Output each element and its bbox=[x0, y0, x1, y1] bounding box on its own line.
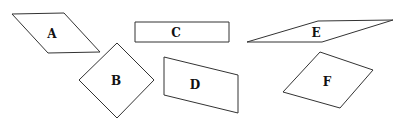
shape-a-label: A bbox=[46, 27, 57, 41]
shape-b: B bbox=[79, 43, 154, 118]
shape-d-outline bbox=[164, 57, 238, 113]
shape-c-outline bbox=[135, 22, 229, 42]
shape-e-label: E bbox=[311, 26, 320, 40]
shape-d-label: D bbox=[190, 78, 200, 92]
shape-d: D bbox=[164, 57, 238, 113]
quadrilateral-diagram: A B C D E F bbox=[0, 0, 404, 123]
shape-c-label: C bbox=[171, 26, 181, 40]
shape-f: F bbox=[283, 52, 373, 108]
shape-c: C bbox=[135, 22, 229, 42]
shape-f-label: F bbox=[323, 75, 332, 89]
shape-a: A bbox=[12, 13, 100, 53]
shape-b-label: B bbox=[111, 74, 121, 88]
shape-e: E bbox=[247, 20, 393, 42]
